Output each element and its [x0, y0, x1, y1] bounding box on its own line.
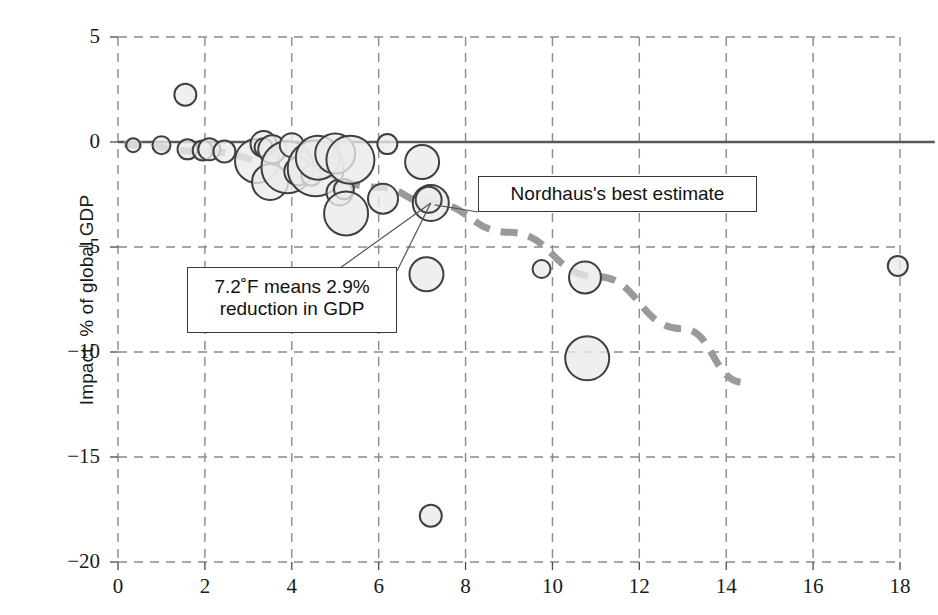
data-point-bubble	[416, 187, 442, 213]
data-point-bubble	[213, 140, 235, 162]
annotation-reduction-line-2: reduction in GDP	[188, 298, 396, 320]
annotation-reduction-line-1: 7.2˚F means 2.9%	[188, 276, 396, 298]
y-tick-label: −10	[40, 339, 100, 364]
x-tick-label: 4	[262, 574, 322, 599]
x-tick-label: 14	[696, 574, 756, 599]
data-point-bubble	[326, 136, 374, 184]
data-point-bubble	[420, 505, 442, 527]
data-point-bubble	[409, 257, 443, 291]
x-tick-label: 8	[436, 574, 496, 599]
x-tick-label: 10	[522, 574, 582, 599]
data-point-bubble	[368, 184, 398, 214]
data-point-bubble	[405, 145, 439, 179]
data-point-bubble	[569, 261, 601, 293]
data-point-bubble	[324, 191, 368, 235]
data-point-bubble	[533, 260, 551, 278]
data-point-bubble	[126, 138, 140, 152]
y-tick-label: 0	[40, 129, 100, 154]
chart-figure: Impact, % of global GDP 024681012141618 …	[0, 0, 938, 615]
y-tick-label: −5	[40, 234, 100, 259]
data-point-bubble	[888, 256, 908, 276]
x-tick-label: 12	[609, 574, 669, 599]
x-tick-label: 0	[88, 574, 148, 599]
y-tick-label: −20	[40, 549, 100, 574]
x-tick-label: 18	[870, 574, 930, 599]
x-tick-label: 6	[349, 574, 409, 599]
annotation-nordhaus-estimate: Nordhaus's best estimate	[478, 176, 757, 212]
scatter-plot-canvas	[0, 0, 938, 615]
x-tick-label: 2	[175, 574, 235, 599]
data-point-bubble	[152, 136, 170, 154]
x-tick-label: 16	[783, 574, 843, 599]
data-point-bubble	[174, 84, 196, 106]
y-axis-label: Impact, % of global GDP	[76, 150, 98, 450]
annotation-gdp-reduction: 7.2˚F means 2.9% reduction in GDP	[187, 267, 397, 333]
annotation-nordhaus-text: Nordhaus's best estimate	[479, 183, 756, 205]
data-point-bubble	[377, 134, 397, 154]
data-point-bubble	[565, 336, 609, 380]
y-tick-label: −15	[40, 444, 100, 469]
y-tick-label: 5	[40, 24, 100, 49]
